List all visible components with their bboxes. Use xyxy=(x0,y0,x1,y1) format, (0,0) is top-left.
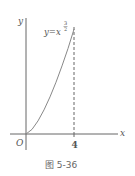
x-tick-label-4: 4 xyxy=(72,140,78,150)
curve-label-exponent-denominator: 2 xyxy=(64,26,67,32)
figure-canvas: y x O 4 y=x 3 2 图 5-36 xyxy=(0,0,135,176)
y-axis-label: y xyxy=(17,16,24,26)
x-axis-label: x xyxy=(120,128,125,138)
curve-y-x-three-halves xyxy=(26,29,74,134)
origin-label: O xyxy=(16,138,24,148)
figure-caption: 图 5-36 xyxy=(45,160,78,170)
curve-label: y=x xyxy=(43,27,61,37)
